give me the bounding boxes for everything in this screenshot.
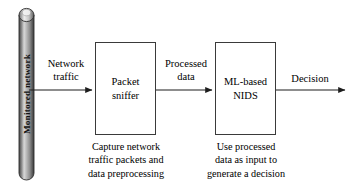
arrow-label-network-traffic-line2: traffic bbox=[38, 70, 94, 83]
arrow-label-decision: Decision bbox=[283, 72, 337, 85]
arrow-label-processed-data-line2: data bbox=[160, 70, 212, 83]
node-ml-based-nids-label-line2: NIDS bbox=[224, 89, 267, 102]
node-ml-based-nids-label-line1: ML-based bbox=[224, 75, 267, 88]
node-packet-sniffer[interactable]: Packet sniffer bbox=[95, 42, 156, 135]
arrow-label-network-traffic: Network traffic bbox=[38, 57, 94, 83]
caption-ml-based-nids-line1: Use processed bbox=[198, 140, 294, 153]
diagram-canvas: Monitored network Packet sniffer ML-base… bbox=[0, 0, 354, 195]
node-packet-sniffer-label-wrap: Packet sniffer bbox=[112, 75, 140, 101]
caption-ml-based-nids-line2: data as input to bbox=[198, 153, 294, 166]
node-packet-sniffer-label-line1: Packet bbox=[112, 75, 140, 88]
arrow-label-processed-data: Processed data bbox=[160, 57, 212, 83]
arrow-label-decision-line1: Decision bbox=[283, 72, 337, 85]
caption-packet-sniffer-line2: traffic packets and bbox=[78, 153, 174, 166]
arrow-label-processed-data-line1: Processed bbox=[160, 57, 212, 70]
monitored-network-cylinder bbox=[19, 8, 34, 180]
node-ml-based-nids-label-wrap: ML-based NIDS bbox=[224, 75, 267, 101]
node-ml-based-nids[interactable]: ML-based NIDS bbox=[215, 42, 276, 135]
caption-packet-sniffer-line3: data preprocessing bbox=[78, 167, 174, 180]
diagram-vector-layer bbox=[0, 0, 354, 195]
caption-packet-sniffer-line1: Capture network bbox=[78, 140, 174, 153]
caption-ml-based-nids: Use processed data as input to generate … bbox=[198, 140, 294, 180]
node-packet-sniffer-label-line2: sniffer bbox=[112, 89, 140, 102]
caption-ml-based-nids-line3: generate a decision bbox=[198, 167, 294, 180]
arrow-label-network-traffic-line1: Network bbox=[38, 57, 94, 70]
caption-packet-sniffer: Capture network traffic packets and data… bbox=[78, 140, 174, 180]
